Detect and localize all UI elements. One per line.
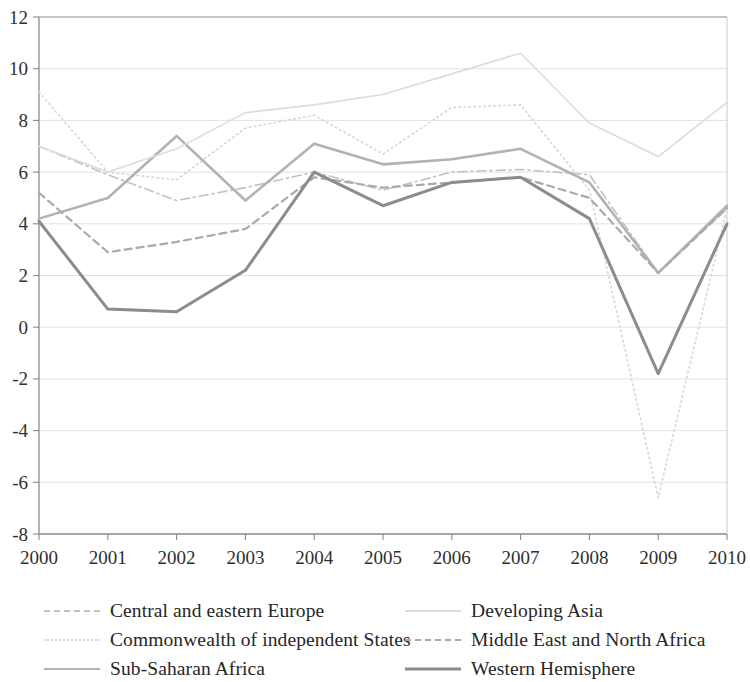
- legend-label-western-hemisphere: Western Hemisphere: [471, 658, 635, 680]
- legend-label-middle-east-and-north-africa: Middle East and North Africa: [471, 629, 706, 651]
- x-tick-label: 2004: [295, 547, 334, 568]
- x-tick-label: 2005: [364, 547, 402, 568]
- series-line-western-hemisphere: [39, 172, 727, 374]
- legend-swatch-middle-east-and-north-africa: [405, 634, 461, 646]
- y-tick-label: 4: [19, 213, 29, 234]
- x-tick-label: 2010: [708, 547, 746, 568]
- legend-item-developing-asia[interactable]: Developing Asia: [395, 596, 750, 625]
- y-tick-label: 0: [19, 317, 29, 338]
- x-tick-label: 2008: [570, 547, 608, 568]
- chart-plot: 121086420-2-4-6-820002001200220032004200…: [0, 0, 750, 590]
- legend-label-developing-asia: Developing Asia: [471, 600, 603, 622]
- legend-item-western-hemisphere[interactable]: Western Hemisphere: [395, 654, 750, 682]
- chart-legend: Central and eastern Europe Developing As…: [0, 592, 750, 682]
- y-tick-label: -2: [12, 368, 28, 389]
- x-tick-label: 2009: [639, 547, 677, 568]
- x-tick-label: 2001: [89, 547, 127, 568]
- x-tick-label: 2006: [433, 547, 471, 568]
- legend-grid: Central and eastern Europe Developing As…: [0, 596, 750, 682]
- y-tick-label: -6: [12, 472, 28, 493]
- legend-item-commonwealth-of-independent-states[interactable]: Commonwealth of independent States: [0, 625, 395, 654]
- y-tick-label: 8: [19, 110, 29, 131]
- x-tick-label: 2007: [502, 547, 540, 568]
- legend-label-central-and-eastern-europe: Central and eastern Europe: [110, 600, 324, 622]
- y-tick-label: 12: [9, 7, 28, 28]
- legend-swatch-central-and-eastern-europe: [44, 605, 100, 617]
- legend-label-commonwealth-of-independent-states: Commonwealth of independent States: [110, 629, 411, 651]
- y-tick-label: 2: [19, 265, 29, 286]
- line-chart-figure: 121086420-2-4-6-820002001200220032004200…: [0, 0, 750, 682]
- y-tick-label: 10: [9, 58, 28, 79]
- x-tick-label: 2000: [20, 547, 58, 568]
- x-tick-label: 2002: [158, 547, 196, 568]
- legend-swatch-sub-saharan-africa: [44, 663, 100, 675]
- x-tick-label: 2003: [226, 547, 264, 568]
- plot-area-container: 121086420-2-4-6-820002001200220032004200…: [0, 0, 750, 590]
- legend-item-sub-saharan-africa[interactable]: Sub-Saharan Africa: [0, 654, 395, 682]
- legend-label-sub-saharan-africa: Sub-Saharan Africa: [110, 658, 265, 680]
- legend-swatch-developing-asia: [405, 605, 461, 617]
- legend-swatch-western-hemisphere: [405, 663, 461, 675]
- legend-swatch-commonwealth-of-independent-states: [44, 634, 100, 646]
- legend-item-central-and-eastern-europe[interactable]: Central and eastern Europe: [0, 596, 395, 625]
- legend-item-middle-east-and-north-africa[interactable]: Middle East and North Africa: [395, 625, 750, 654]
- y-tick-label: 6: [19, 162, 29, 183]
- y-tick-label: -8: [12, 524, 28, 545]
- y-tick-label: -4: [12, 420, 28, 441]
